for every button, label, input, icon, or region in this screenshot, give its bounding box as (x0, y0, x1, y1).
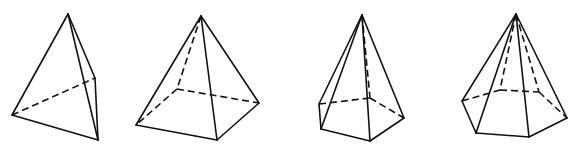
hidden-edge (177, 89, 259, 103)
visible-edge (319, 104, 321, 129)
visible-edge (476, 133, 529, 137)
visible-edge (68, 14, 98, 140)
visible-edge (370, 118, 404, 141)
visible-edge (516, 14, 529, 137)
visible-edge (462, 101, 476, 133)
visible-edge (12, 14, 68, 115)
visible-edge (217, 103, 259, 140)
hidden-edge (136, 89, 177, 125)
hidden-edge (370, 98, 404, 118)
hidden-edge (177, 16, 201, 89)
visible-edge (319, 15, 362, 104)
visible-edge (476, 14, 516, 133)
visible-edge (462, 14, 516, 101)
visible-edge (201, 16, 259, 103)
pentagonal-pyramid (319, 15, 404, 141)
visible-edge (321, 15, 362, 129)
hidden-edge (319, 98, 370, 104)
visible-edge (362, 15, 370, 141)
visible-edge (136, 125, 217, 140)
hidden-edge (539, 92, 567, 118)
visible-edge (136, 16, 201, 125)
pyramids-figure (0, 0, 581, 152)
visible-edge (12, 115, 98, 140)
visible-edge (201, 16, 217, 140)
hexagonal-pyramid (462, 14, 567, 137)
visible-edge (529, 118, 567, 137)
hidden-edge (12, 78, 95, 115)
visible-edge (516, 14, 567, 118)
square-pyramid (136, 16, 259, 140)
hidden-edge (500, 90, 539, 92)
visible-edge (321, 129, 370, 141)
triangular-pyramid (12, 14, 98, 140)
